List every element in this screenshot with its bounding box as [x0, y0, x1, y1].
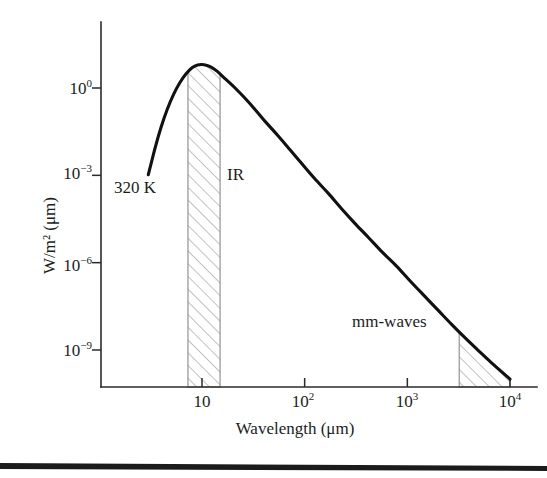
ir-band-hatch — [188, 65, 220, 387]
x-tick-label-0: 10 — [194, 393, 211, 410]
x-tick-label-3: 104 — [499, 393, 522, 410]
blackbody-spectrum-chart: 100 10−3 10−6 10−9 10 102 103 104 W/m² (… — [0, 0, 547, 478]
y-tick-label-1: 10−3 — [63, 165, 92, 182]
y-tick-label-0: 100 — [70, 80, 93, 97]
x-axis-title: Wavelength (μm) — [236, 420, 355, 437]
ir-band-shape — [188, 65, 220, 387]
y-axis-title: W/m² (μm) — [41, 197, 58, 274]
bottom-rule — [0, 463, 547, 471]
mm-waves-band-annotation: mm-waves — [352, 313, 427, 330]
ir-band-annotation: IR — [227, 166, 244, 183]
temperature-annotation: 320 K — [114, 179, 156, 196]
chart-canvas — [0, 0, 547, 478]
figure-page: 100 10−3 10−6 10−9 10 102 103 104 W/m² (… — [0, 0, 547, 478]
x-tick-label-1: 102 — [292, 393, 315, 410]
y-tick-label-2: 10−6 — [63, 257, 92, 274]
y-axis-ticks — [92, 88, 101, 350]
y-tick-label-3: 10−9 — [63, 342, 92, 359]
x-tick-label-2: 103 — [396, 393, 419, 410]
